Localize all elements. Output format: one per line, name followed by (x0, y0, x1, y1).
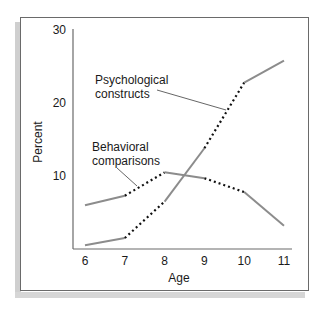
psych-label-line2: constructs (95, 87, 150, 101)
y-tick-label: 10 (53, 169, 67, 183)
line-segment (204, 178, 244, 192)
line-chart: 102030 67891011 Percent Age Psychologica… (0, 0, 325, 310)
y-tick-labels: 102030 (53, 23, 67, 183)
x-tick-label: 10 (238, 254, 252, 268)
x-tick-label: 6 (82, 254, 89, 268)
line-segment (204, 83, 244, 149)
psych-leader-line (157, 90, 226, 110)
line-segment (85, 238, 125, 245)
x-axis-title: Age (168, 271, 190, 285)
x-tick-labels: 67891011 (82, 254, 291, 268)
psychological-constructs-label: Psychological constructs (95, 73, 226, 110)
x-tick-label: 9 (201, 254, 208, 268)
psych-label-line1: Psychological (95, 73, 168, 87)
line-segment (125, 172, 165, 195)
behavioral-comparisons-series (85, 172, 284, 225)
behav-label-line2: comparisons (92, 154, 160, 168)
behavioral-comparisons-label: Behavioral comparisons (92, 140, 160, 186)
x-tick-label: 7 (121, 254, 128, 268)
line-segment (125, 202, 165, 239)
line-segment (244, 61, 284, 83)
y-axis-title: Percent (31, 121, 45, 163)
y-tick-label: 30 (53, 23, 67, 37)
x-tick-label: 8 (161, 254, 168, 268)
y-tick-label: 20 (53, 96, 67, 110)
line-segment (85, 196, 125, 205)
line-segment (165, 172, 205, 178)
behav-label-line1: Behavioral (92, 140, 149, 154)
line-segment (244, 192, 284, 226)
x-tick-label: 11 (278, 254, 291, 268)
behav-leader-line (117, 168, 137, 186)
